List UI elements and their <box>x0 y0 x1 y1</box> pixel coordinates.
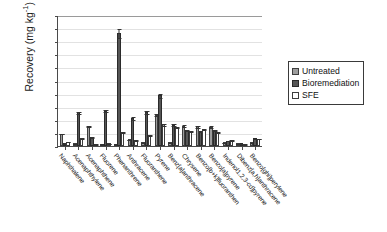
chart-figure: Recovery (mg kg-1) 500450400350300250200… <box>0 0 387 232</box>
bar-group <box>194 16 208 146</box>
legend-item[interactable]: Untreated <box>292 65 359 77</box>
error-bar <box>170 143 171 144</box>
error-bar <box>187 130 188 132</box>
error-bar <box>190 131 191 133</box>
x-axis-labels: NaphthaleneAcenaphthyleneAcenaphtheneFlu… <box>57 152 262 232</box>
error-bar <box>173 124 174 127</box>
error-bar <box>88 126 89 128</box>
error-bar <box>224 143 225 144</box>
error-bar <box>81 138 82 140</box>
bar <box>117 33 120 146</box>
error-bar <box>68 142 69 143</box>
error-bar <box>64 143 65 145</box>
bar <box>66 142 69 146</box>
error-bar <box>119 29 120 38</box>
error-bar <box>231 140 232 142</box>
bar-group <box>153 16 167 146</box>
error-bar <box>132 117 133 121</box>
error-bar <box>156 114 157 117</box>
error-bar <box>204 129 205 131</box>
error-bar <box>244 145 245 146</box>
legend-label: Untreated <box>302 67 340 76</box>
error-bar <box>258 139 259 141</box>
bar <box>121 132 124 146</box>
error-bar <box>122 132 123 134</box>
bar <box>104 111 107 146</box>
bar <box>243 144 246 146</box>
error-bar <box>129 140 130 142</box>
error-bar <box>159 94 160 99</box>
error-bar <box>238 144 239 145</box>
error-bar <box>146 111 147 115</box>
y-axis-tick-mark <box>55 147 59 148</box>
bar <box>162 124 165 146</box>
bar <box>134 140 137 146</box>
bar-group <box>248 16 262 146</box>
bar-group <box>85 16 99 146</box>
bar <box>107 143 110 146</box>
bar-group <box>167 16 181 146</box>
bar <box>175 127 178 146</box>
error-bar <box>176 127 177 130</box>
error-bar <box>251 143 252 144</box>
error-bar <box>115 144 116 145</box>
legend: UntreatedBioremediationSFE <box>288 61 364 105</box>
error-bar <box>74 144 75 145</box>
bar <box>80 138 83 146</box>
error-bar <box>214 130 215 132</box>
bar <box>148 135 151 146</box>
legend-item[interactable]: Bioremediation <box>292 77 359 89</box>
error-bar <box>200 131 201 133</box>
bar-group <box>180 16 194 146</box>
bar <box>230 140 233 146</box>
error-bar <box>197 126 198 129</box>
error-bar <box>142 143 143 144</box>
legend-label: Bioremediation <box>302 79 359 88</box>
legend-swatch <box>292 68 299 75</box>
error-bar <box>95 145 96 146</box>
y-axis-title-text: Recovery (mg kg <box>23 12 35 91</box>
legend-label: SFE <box>302 91 319 100</box>
bar <box>94 144 97 146</box>
bar-group <box>126 16 140 146</box>
bar-group <box>58 16 72 146</box>
error-bar <box>241 144 242 145</box>
error-bar <box>217 132 218 134</box>
bar-group <box>99 16 113 146</box>
y-axis-title-suffix: ) <box>23 2 35 6</box>
error-bar <box>163 124 164 127</box>
error-bar <box>108 144 109 145</box>
legend-swatch <box>292 92 299 99</box>
error-bar <box>183 125 184 128</box>
bar <box>202 129 205 146</box>
error-bar <box>149 135 150 137</box>
error-bar <box>105 110 106 114</box>
plot-area: 500450400350300250200150100500 <box>57 16 262 147</box>
error-bar <box>210 126 211 129</box>
bar-group <box>140 16 154 146</box>
legend-item[interactable]: SFE <box>292 89 359 101</box>
legend-swatch <box>292 80 299 87</box>
bar-group <box>112 16 126 146</box>
bar-groups <box>58 16 262 146</box>
bar-group <box>221 16 235 146</box>
error-bar <box>227 141 228 143</box>
bar <box>189 131 192 146</box>
error-bar <box>255 139 256 141</box>
error-bar <box>136 140 137 142</box>
error-bar <box>61 134 62 136</box>
error-bar <box>91 137 92 139</box>
error-bar <box>102 145 103 146</box>
error-bar <box>78 112 79 116</box>
y-axis-title-exponent: -1 <box>21 5 30 12</box>
bar-group <box>72 16 86 146</box>
bar <box>257 139 260 146</box>
y-axis-title: Recovery (mg kg-1) <box>21 0 35 117</box>
bar-group <box>208 16 222 146</box>
bar <box>216 132 219 146</box>
bar-group <box>235 16 249 146</box>
